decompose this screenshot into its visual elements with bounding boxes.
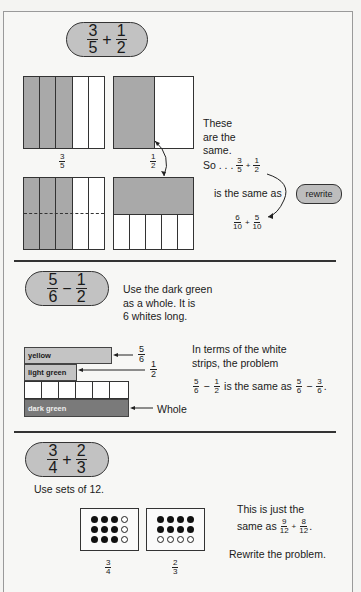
- light-green-bar: light green: [24, 364, 77, 381]
- divider-1: [14, 260, 336, 262]
- label-three-fourths: 34: [105, 559, 111, 576]
- divider-2: [14, 431, 336, 433]
- label-three-fifths: 35: [59, 153, 65, 170]
- dot-set-two-thirds: [146, 508, 205, 551]
- result-3: same as 912 + 812.: [237, 518, 312, 535]
- operator: +: [102, 31, 111, 49]
- just-same-text: This is just the: [237, 503, 304, 517]
- so-line: So . . . 35 + 12: [203, 157, 260, 174]
- equation-2: 56 − 12 is the same as 56 − 36.: [193, 378, 327, 395]
- problem-pill-1: 35 + 12: [66, 22, 148, 57]
- problem-pill-3: 34 + 23: [25, 442, 109, 477]
- instructions-2: Use the dark green as a whole. It is 6 w…: [123, 283, 212, 324]
- result-1: 610 + 510: [233, 214, 261, 231]
- rewrite-text: Rewrite the problem.: [229, 548, 326, 562]
- num: 1: [116, 23, 127, 40]
- problem-pill-2: 56 − 12: [25, 271, 109, 306]
- den: 5: [88, 40, 97, 56]
- terms-text: In terms of the white strips, the proble…: [192, 343, 287, 370]
- arrows-icon: [75, 345, 165, 415]
- curved-arrow-icon: [262, 170, 292, 222]
- whole-label: Whole: [157, 403, 187, 417]
- den: 2: [117, 40, 126, 56]
- label-two-thirds: 23: [172, 559, 178, 576]
- label-five-sixths: 56: [138, 345, 145, 364]
- num: 3: [87, 23, 98, 40]
- same-text: These are the same.: [203, 117, 236, 158]
- sets-instruction: Use sets of 12.: [34, 483, 104, 497]
- double-arrow-icon: [150, 138, 180, 180]
- label-one-half-2: 12: [150, 360, 157, 379]
- dot-set-three-fourths: [80, 508, 139, 551]
- rewrite-cloud: rewrite: [296, 184, 342, 204]
